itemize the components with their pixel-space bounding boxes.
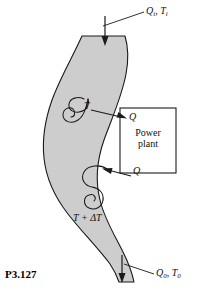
inlet-label: Qi, Ti: [146, 6, 168, 16]
outlet-t-subscript: 0: [177, 272, 181, 280]
inlet-q-subscript: i: [153, 10, 155, 18]
figure-caption: P3.127: [5, 268, 36, 280]
power-plant-line-1: Power: [124, 127, 172, 138]
heat-out-label: Q: [133, 166, 140, 176]
power-plant-label: Power plant: [124, 127, 172, 149]
power-plant-line-2: plant: [124, 138, 172, 149]
inlet-leader-line: [103, 12, 144, 26]
outlet-q-subscript: 0: [163, 272, 167, 280]
inlet-t-symbol: T: [160, 5, 166, 16]
outlet-label: Q0, T0: [156, 268, 181, 278]
temperature-upper-label: T: [84, 101, 90, 111]
temperature-lower-label: T + ΔT: [73, 213, 102, 223]
inlet-t-subscript: i: [166, 10, 168, 18]
heat-in-label: Q: [129, 112, 136, 122]
heat-from-plant-arrow: [102, 168, 131, 176]
